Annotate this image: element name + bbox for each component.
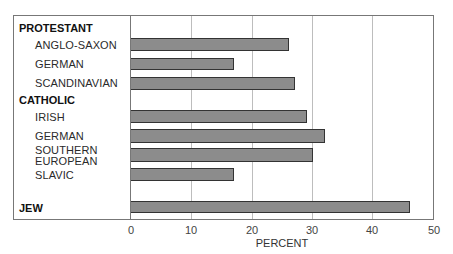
x-tick-50: 50 (428, 224, 440, 236)
gridline-40 (372, 16, 373, 219)
x-axis-label: PERCENT (256, 237, 309, 249)
bar-southern-european (131, 148, 313, 162)
group-label-jew: JEW (19, 203, 43, 214)
category-label-german-catholic: GERMAN (35, 131, 84, 142)
x-tick-20: 20 (246, 224, 258, 236)
bar-german-catholic (131, 129, 325, 143)
bar-german-protestant (131, 58, 234, 70)
category-label-slavic: SLAVIC (35, 170, 74, 181)
x-tick-40: 40 (366, 224, 378, 236)
x-tick-10: 10 (185, 224, 197, 236)
bar-jew (131, 201, 410, 213)
group-label-protestant: PROTESTANT (19, 23, 93, 34)
x-tick-0: 0 (128, 224, 134, 236)
bar-anglo-saxon (131, 38, 289, 51)
x-tick-30: 30 (306, 224, 318, 236)
category-label-german-protestant: GERMAN (35, 59, 84, 70)
bar-scandinavian (131, 77, 295, 90)
category-label-anglo-saxon: ANGLO-SAXON (35, 40, 117, 51)
bar-irish (131, 110, 307, 123)
bar-slavic (131, 168, 234, 181)
gridline-30 (312, 16, 313, 219)
group-label-catholic: CATHOLIC (19, 95, 75, 106)
category-label-scandinavian: SCANDINAVIAN (35, 78, 118, 89)
category-label-european: EUROPEAN (35, 156, 98, 167)
category-label-irish: IRISH (35, 112, 65, 123)
